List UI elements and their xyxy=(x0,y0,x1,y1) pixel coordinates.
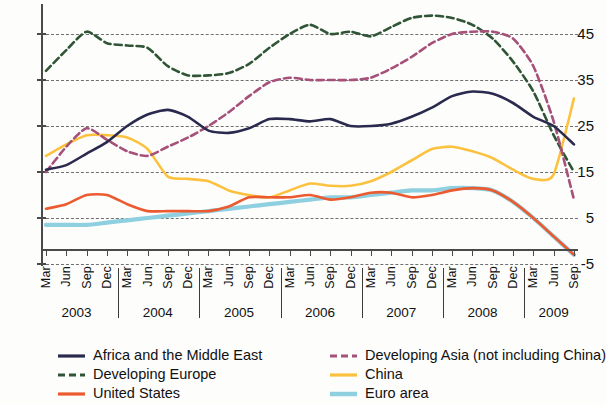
x-tick-mark xyxy=(46,249,47,256)
x-tick-label: Sep xyxy=(567,266,581,289)
legend-label: United States xyxy=(93,386,180,401)
x-tick-mark xyxy=(290,249,291,256)
x-tick-label: Dec xyxy=(181,266,195,289)
x-tick-mark xyxy=(330,249,331,256)
legend-item[interactable]: United States xyxy=(58,384,180,403)
x-tick-label: Jun xyxy=(384,266,398,287)
x-tick-mark xyxy=(229,249,230,256)
x-axis-year-label: 2006 xyxy=(295,305,345,320)
x-tick-mark xyxy=(412,249,413,256)
x-tick-mark xyxy=(452,249,453,256)
year-separator xyxy=(362,268,363,318)
legend-label: Developing Asia (not including China) xyxy=(365,348,606,363)
legend-label: Developing Europe xyxy=(93,367,216,382)
x-tick-label: Dec xyxy=(425,266,439,289)
legend-color-swatch xyxy=(58,369,85,381)
x-axis-year-label: 2003 xyxy=(51,305,101,320)
series-lines xyxy=(42,4,578,264)
x-tick-mark xyxy=(249,249,250,256)
x-axis-year-label: 2005 xyxy=(214,305,264,320)
series-line xyxy=(46,188,574,255)
x-tick-mark xyxy=(107,249,108,256)
x-tick-label: Mar xyxy=(445,266,459,288)
year-separator xyxy=(524,268,525,318)
x-tick-mark xyxy=(269,249,270,256)
x-tick-mark xyxy=(127,249,128,256)
legend-label: Euro area xyxy=(365,386,429,401)
year-separator xyxy=(118,268,119,318)
x-tick-label: Jun xyxy=(465,266,479,287)
legend-item[interactable]: China xyxy=(330,365,403,384)
series-line xyxy=(46,31,574,199)
x-tick-label: Dec xyxy=(506,266,520,289)
x-tick-mark xyxy=(188,249,189,256)
legend-label: Africa and the Middle East xyxy=(93,348,262,363)
x-tick-mark xyxy=(533,249,534,256)
x-tick-mark xyxy=(66,249,67,256)
x-tick-mark xyxy=(554,249,555,256)
x-tick-mark xyxy=(574,249,575,256)
x-tick-label: Sep xyxy=(161,266,175,289)
x-tick-mark xyxy=(513,249,514,256)
x-tick-label: Jun xyxy=(141,266,155,287)
legend-color-swatch xyxy=(330,369,357,381)
year-separator xyxy=(199,268,200,318)
x-tick-mark xyxy=(493,249,494,256)
x-tick-label: Sep xyxy=(80,266,94,289)
x-axis-year-label: 2008 xyxy=(458,305,508,320)
legend-label: China xyxy=(365,367,403,382)
x-tick-label: Jun xyxy=(303,266,317,287)
x-tick-label: Mar xyxy=(526,266,540,288)
x-tick-mark xyxy=(391,249,392,256)
x-tick-label: Mar xyxy=(120,266,134,288)
x-tick-label: Sep xyxy=(486,266,500,289)
x-tick-mark xyxy=(472,249,473,256)
x-axis-year-label: 2004 xyxy=(133,305,183,320)
x-axis-year-label: 2007 xyxy=(376,305,426,320)
x-tick-label: Mar xyxy=(283,266,297,288)
x-tick-mark xyxy=(208,249,209,256)
x-tick-mark xyxy=(87,249,88,256)
plot-area xyxy=(42,4,578,264)
x-tick-label: Sep xyxy=(242,266,256,289)
x-tick-label: Dec xyxy=(344,266,358,289)
x-tick-label: Dec xyxy=(262,266,276,289)
x-axis-year-label: 2009 xyxy=(529,305,579,320)
legend-item[interactable]: Developing Asia (not including China) xyxy=(330,346,606,365)
x-tick-mark xyxy=(351,249,352,256)
year-separator xyxy=(443,268,444,318)
chart-legend: Africa and the Middle EastDeveloping Eur… xyxy=(58,346,588,404)
x-tick-mark xyxy=(310,249,311,256)
legend-item[interactable]: Developing Europe xyxy=(58,365,216,384)
legend-item[interactable]: Africa and the Middle East xyxy=(58,346,262,365)
x-tick-label: Sep xyxy=(323,266,337,289)
x-tick-mark xyxy=(168,249,169,256)
legend-color-swatch xyxy=(58,350,85,362)
x-tick-mark xyxy=(148,249,149,256)
x-tick-mark xyxy=(432,249,433,256)
x-tick-label: Sep xyxy=(405,266,419,289)
x-tick-label: Mar xyxy=(39,266,53,288)
legend-item[interactable]: Euro area xyxy=(330,384,429,403)
year-separator xyxy=(281,268,282,318)
x-tick-label: Mar xyxy=(364,266,378,288)
legend-color-swatch xyxy=(58,388,85,400)
x-tick-label: Jun xyxy=(222,266,236,287)
gridline xyxy=(46,264,578,265)
series-line xyxy=(46,98,574,197)
x-tick-label: Jun xyxy=(547,266,561,287)
legend-color-swatch xyxy=(330,388,357,400)
x-tick-label: Jun xyxy=(59,266,73,287)
x-tick-label: Dec xyxy=(100,266,114,289)
x-tick-mark xyxy=(371,249,372,256)
legend-color-swatch xyxy=(330,350,357,362)
x-tick-label: Mar xyxy=(201,266,215,288)
